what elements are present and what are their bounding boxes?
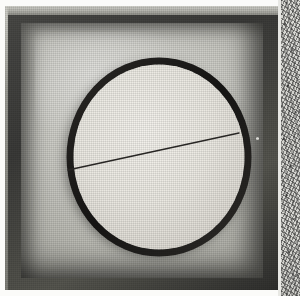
photograph-image [5, 6, 279, 290]
white-speck [256, 137, 259, 140]
photograph-plate: Grayscale photograph of a round knurled … [0, 0, 300, 296]
tray-top-rim [5, 6, 279, 15]
knurled-disc [65, 55, 253, 259]
film-grain-strip [281, 0, 300, 296]
tray-left-rim [5, 6, 8, 290]
disc-face [74, 65, 245, 250]
